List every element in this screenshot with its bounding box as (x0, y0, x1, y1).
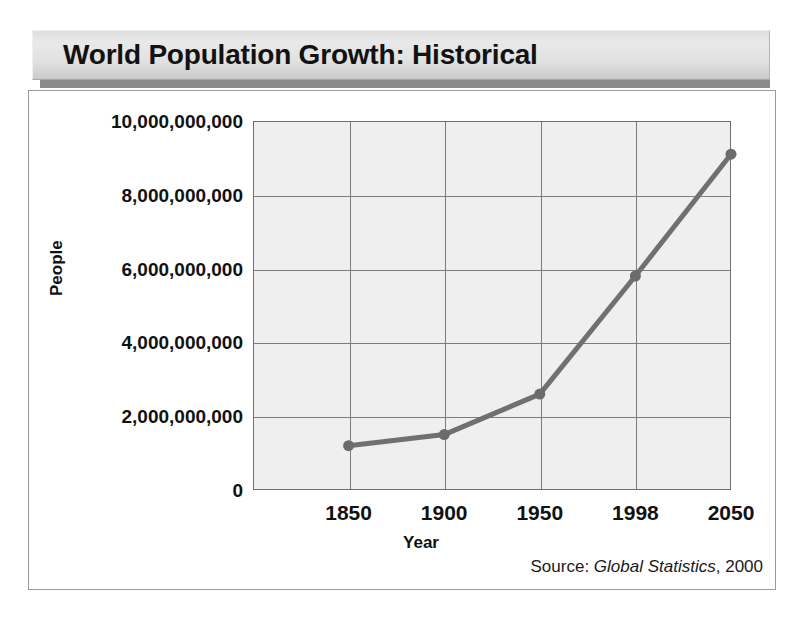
y-axis-tick-label: 6,000,000,000 (121, 260, 243, 279)
data-point-marker (726, 149, 737, 160)
source-prefix: Source: (531, 557, 590, 576)
y-axis-label: People (47, 240, 67, 296)
series-line-chart (253, 121, 731, 490)
y-axis-tick-label: 10,000,000,000 (111, 112, 243, 131)
plot-wrapper (253, 121, 731, 490)
data-point-marker (630, 271, 641, 282)
x-axis-tick-label: 1900 (421, 502, 468, 523)
y-axis-tick-labels: 02,000,000,0004,000,000,0006,000,000,000… (60, 0, 243, 622)
chart-figure: World Population Growth: Historical 02,0… (0, 0, 805, 622)
data-point-marker (534, 389, 545, 400)
data-point-marker (439, 429, 450, 440)
x-axis-tick-label: 1850 (325, 502, 372, 523)
source-note: Source: Global Statistics, 2000 (531, 557, 763, 577)
y-axis-tick-label: 8,000,000,000 (121, 186, 243, 205)
y-axis-tick-label: 4,000,000,000 (121, 333, 243, 352)
source-year: , 2000 (716, 557, 763, 576)
x-axis-tick-label: 1950 (516, 502, 563, 523)
series-line (349, 154, 731, 446)
x-axis-tick-label: 2050 (708, 502, 755, 523)
x-axis-label: Year (0, 533, 805, 553)
y-axis-tick-label: 0 (232, 481, 243, 500)
source-work-title: Global Statistics (594, 557, 716, 576)
x-axis-tick-label: 1998 (612, 502, 659, 523)
data-point-marker (343, 440, 354, 451)
y-axis-tick-label: 2,000,000,000 (121, 407, 243, 426)
